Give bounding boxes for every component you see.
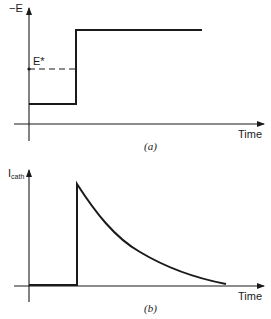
panel-b: Icath Time (b) [8,167,264,315]
panel-a: −E E* Time (a) [9,2,264,153]
e-star-marker [27,67,30,70]
caption-a: (a) [144,140,157,153]
figure: −E E* Time (a) Icath Time (b) [0,0,271,319]
x-axis-label-a: Time [238,128,262,140]
y-axis-label-b-sub: cath [11,173,24,180]
x-axis-label-b: Time [238,290,262,302]
e-star-label: E* [33,55,45,67]
caption-b: (b) [144,302,157,315]
y-axis-label-b: Icath [8,167,24,180]
cathodic-current-curve [29,184,226,285]
y-axis-label-a: −E [9,2,23,14]
potential-step-curve [29,30,202,104]
